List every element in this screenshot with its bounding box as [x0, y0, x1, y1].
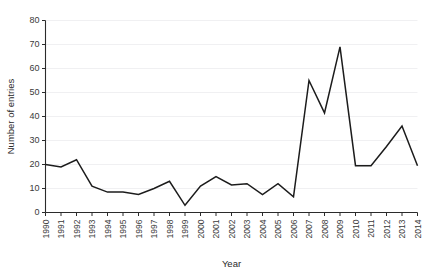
y-tick-label: 80: [29, 15, 39, 25]
x-tick-labels: 1990199119921993199419951996199719981999…: [41, 219, 423, 238]
x-tick-label: 1994: [103, 219, 113, 238]
y-axis: 01020304050607080: [29, 15, 45, 217]
x-tick-label: 2014: [413, 219, 423, 238]
x-tick-label: 2004: [258, 219, 268, 238]
y-tick-label: 70: [29, 39, 39, 49]
chart-canvas: 01020304050607080 1990199119921993199419…: [0, 0, 444, 280]
y-tick-label: 50: [29, 87, 39, 97]
x-tick-label: 2013: [397, 219, 407, 238]
data-series-group: [46, 47, 418, 205]
x-tick-label: 2002: [227, 219, 237, 238]
y-tick-label: 20: [29, 159, 39, 169]
x-tick-label: 1993: [87, 219, 97, 238]
x-tick-label: 2008: [320, 219, 330, 238]
x-tick-label: 2003: [242, 219, 252, 238]
x-tick-label: 1997: [149, 219, 159, 238]
x-axis: 1990199119921993199419951996199719981999…: [41, 213, 423, 239]
x-tick-label: 2012: [382, 219, 392, 238]
x-tick-label: 2010: [351, 219, 361, 238]
x-tick-label: 1998: [165, 219, 175, 238]
x-tick-label: 2000: [196, 219, 206, 238]
x-tick-label: 1990: [41, 219, 51, 238]
x-tick-label: 1992: [72, 219, 82, 238]
x-tick-label: 2001: [211, 219, 221, 238]
y-tick-label: 60: [29, 63, 39, 73]
y-tick-label: 10: [29, 183, 39, 193]
series-line-number-of-entries: [46, 47, 418, 205]
y-tick-label: 40: [29, 111, 39, 121]
x-tick-label: 2007: [304, 219, 314, 238]
line-chart-figure: 01020304050607080 1990199119921993199419…: [0, 0, 444, 280]
x-tick-label: 2011: [366, 219, 376, 238]
y-axis-title: Number of entries: [5, 79, 16, 155]
x-tick-label: 2006: [289, 219, 299, 238]
x-tick-label: 1999: [180, 219, 190, 238]
x-tick-label: 2009: [335, 219, 345, 238]
x-tick-label: 1995: [118, 219, 128, 238]
x-tick-label: 1991: [56, 219, 66, 238]
x-tick-label: 1996: [134, 219, 144, 238]
y-tick-label: 30: [29, 135, 39, 145]
y-tick-labels: 01020304050607080: [29, 15, 39, 217]
x-axis-title: Year: [222, 258, 241, 269]
x-tick-label: 2005: [273, 219, 283, 238]
y-tick-label: 0: [34, 207, 39, 217]
gridlines-group: [46, 21, 418, 189]
